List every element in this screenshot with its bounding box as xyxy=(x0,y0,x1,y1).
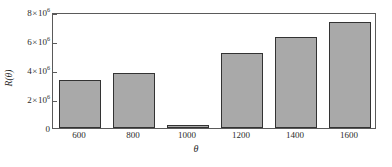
y-tick-exponent: 6 xyxy=(47,35,50,42)
bar-series xyxy=(53,14,375,128)
bar-chart-figure: R(θ) 8×106 6×106 4×106 2×106 0 xyxy=(0,0,392,167)
bar-1400 xyxy=(275,37,317,128)
y-tick-base: 10 xyxy=(38,8,47,18)
y-tick-mantissa: 8 xyxy=(27,8,32,18)
y-tick-exponent: 6 xyxy=(47,93,50,100)
y-tick-mantissa: 4 xyxy=(27,66,32,76)
x-tick-label: 800 xyxy=(126,131,140,140)
y-tick-label: 2×106 xyxy=(27,96,50,105)
y-tick-exponent: 6 xyxy=(47,64,50,71)
x-tick-label: 600 xyxy=(72,131,86,140)
y-tick-label: 4×106 xyxy=(27,67,50,76)
y-tick-mantissa: 2 xyxy=(27,95,32,105)
y-tick-exponent: 6 xyxy=(47,6,50,13)
y-tick-base: 10 xyxy=(38,95,47,105)
x-axis-tick-labels: 600 800 1000 1200 1400 1600 xyxy=(52,131,376,145)
y-axis-tick-labels: 8×106 6×106 4×106 2×106 0 xyxy=(10,0,50,167)
y-tick-mantissa: 6 xyxy=(27,37,32,47)
bar-1200 xyxy=(221,53,263,128)
bar-600 xyxy=(59,80,101,128)
x-tick-label: 1600 xyxy=(340,131,358,140)
plot-area xyxy=(52,13,376,129)
y-tick-base: 10 xyxy=(38,66,47,76)
y-tick-label: 8×106 xyxy=(27,9,50,18)
bar-800 xyxy=(113,73,155,128)
bar-1600 xyxy=(329,22,371,128)
x-tick-label: 1200 xyxy=(232,131,250,140)
x-tick-label: 1400 xyxy=(286,131,304,140)
x-tick-label: 1000 xyxy=(178,131,196,140)
x-axis-label: θ xyxy=(0,144,392,154)
bar-1000 xyxy=(167,125,209,128)
y-tick-base: 10 xyxy=(38,37,47,47)
y-tick-label-zero: 0 xyxy=(46,125,51,134)
y-tick-label: 6×106 xyxy=(27,38,50,47)
y-tick-mantissa: 0 xyxy=(46,124,51,134)
